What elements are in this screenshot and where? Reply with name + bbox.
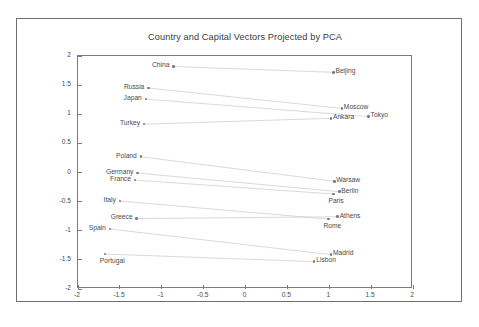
country-capital-link [135, 180, 333, 194]
y-axis-tick-label: 2 [43, 51, 71, 58]
data-point-label: Warsaw [336, 176, 360, 183]
data-point-marker[interactable] [134, 179, 137, 182]
data-point-marker[interactable] [313, 260, 316, 263]
y-tick-mark [78, 289, 82, 290]
y-tick-mark [78, 114, 82, 115]
data-point-marker[interactable] [327, 218, 330, 221]
x-axis-tick-label: -2 [62, 291, 92, 298]
data-point-marker[interactable] [332, 193, 335, 196]
data-point-marker[interactable] [172, 65, 175, 68]
x-axis-tick-label: -0.5 [188, 291, 218, 298]
data-point-label: Berlin [341, 187, 358, 194]
data-point-marker[interactable] [140, 155, 143, 158]
country-capital-link [105, 254, 314, 262]
country-capital-link [144, 118, 331, 124]
y-axis-tick-label: -1.5 [43, 255, 71, 262]
x-axis-tick-label: -1.5 [104, 291, 134, 298]
x-tick-mark [287, 285, 288, 289]
data-point-label: France [52, 175, 131, 182]
x-axis-tick-label: -1 [146, 291, 176, 298]
data-point-label: Moscow [344, 103, 369, 110]
country-capital-link [141, 157, 334, 181]
data-point-marker[interactable] [333, 180, 336, 183]
data-point-label: Spain [27, 224, 106, 231]
data-point-marker[interactable] [143, 123, 146, 126]
pca-scatter-chart: Country and Capital Vectors Projected by… [0, 0, 479, 327]
data-point-label: Turkey [61, 119, 140, 126]
data-point-marker[interactable] [136, 172, 139, 175]
country-capital-link [120, 201, 329, 219]
data-point-label: Paris [328, 197, 343, 204]
data-point-marker[interactable] [336, 215, 339, 218]
data-point-label: Beijing [335, 67, 355, 74]
data-point-label: Italy [37, 196, 116, 203]
data-point-label: Portugal [100, 257, 125, 264]
country-capital-link [173, 66, 333, 72]
data-point-label: Rome [323, 222, 341, 229]
x-tick-mark [413, 285, 414, 289]
x-axis-tick-label: 0 [230, 291, 260, 298]
data-point-marker[interactable] [332, 71, 335, 74]
x-tick-mark [203, 285, 204, 289]
data-point-label: Germany [54, 168, 133, 175]
data-point-label: Japan [63, 94, 142, 101]
data-point-marker[interactable] [104, 253, 107, 256]
data-point-marker[interactable] [119, 200, 122, 203]
y-axis-tick-label: -2 [43, 284, 71, 291]
x-axis-tick-label: 1.5 [355, 291, 385, 298]
x-axis-tick-label: 0.5 [271, 291, 301, 298]
x-tick-mark [78, 285, 79, 289]
x-axis-tick-label: 1 [313, 291, 343, 298]
country-capital-link [148, 88, 341, 108]
data-point-marker[interactable] [145, 98, 148, 101]
data-point-marker[interactable] [367, 115, 370, 118]
data-point-label: Madrid [333, 249, 353, 256]
data-point-label: Greece [54, 213, 133, 220]
data-point-marker[interactable] [330, 117, 333, 120]
y-tick-mark [78, 56, 82, 57]
data-point-marker[interactable] [147, 87, 150, 90]
x-tick-mark [329, 285, 330, 289]
country-capital-link [110, 229, 331, 255]
y-tick-mark [78, 259, 82, 260]
data-point-marker[interactable] [135, 217, 138, 220]
x-axis-tick-label: 2 [397, 291, 427, 298]
y-axis-tick-label: 0.5 [43, 138, 71, 145]
country-capital-link [137, 217, 338, 219]
data-point-label: Ankara [333, 113, 354, 120]
y-tick-mark [78, 143, 82, 144]
data-point-marker[interactable] [109, 228, 112, 231]
data-point-label: Russia [65, 83, 144, 90]
x-tick-mark [245, 285, 246, 289]
x-tick-mark [161, 285, 162, 289]
chart-title: Country and Capital Vectors Projected by… [77, 32, 413, 42]
data-point-label: Lisbon [316, 256, 336, 263]
data-point-label: Tokyo [371, 111, 388, 118]
y-axis-tick-label: 1 [43, 109, 71, 116]
x-tick-mark [119, 285, 120, 289]
data-point-marker[interactable] [338, 190, 341, 193]
x-tick-mark [371, 285, 372, 289]
data-point-label: China [90, 61, 169, 68]
data-point-marker[interactable] [341, 107, 344, 110]
data-point-label: Poland [58, 152, 137, 159]
country-capital-link [137, 173, 339, 192]
data-point-label: Athens [340, 212, 361, 219]
